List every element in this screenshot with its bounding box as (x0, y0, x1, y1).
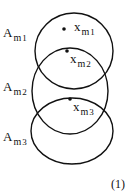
point-dot-1 (62, 27, 66, 31)
point-dot-3 (68, 97, 72, 101)
set-label-3: Am3 (3, 129, 27, 147)
set-label-1: Am1 (3, 25, 27, 43)
point-label-2: xm2 (70, 51, 91, 69)
point-label-1: xm1 (74, 19, 95, 37)
set-label-2: Am2 (3, 79, 27, 97)
venn-diagram: Am1Am2Am3xm1xm2xm3(1) (0, 0, 129, 195)
set-ellipse-3 (31, 98, 113, 164)
equation-number: (1) (111, 177, 125, 191)
point-dot-2 (65, 49, 69, 53)
